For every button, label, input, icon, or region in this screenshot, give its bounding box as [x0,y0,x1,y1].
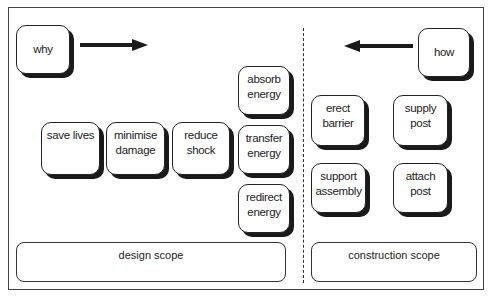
construction-scope-label: construction scope [348,249,440,261]
how-label: how [434,45,454,60]
node-transfer-energy: transfer energy [238,125,290,174]
node-label-line: assembly [312,184,365,199]
node-minimise-damage: minimise damage [106,122,165,175]
node-reduce-shock: reduce shock [172,122,230,175]
arrow-right-icon [80,38,150,52]
node-label-line: damage [107,143,164,158]
node-label-line: energy [239,146,289,161]
node-attach-post: attach post [393,163,448,213]
node-label-line: energy [239,205,289,220]
why-label: why [33,42,53,57]
scope-divider-dashed-line [303,28,304,283]
node-label-line: attach [394,169,447,184]
node-label-line: reduce [173,128,229,143]
node-label-line: supply [394,101,447,116]
node-label-line: redirect [239,190,289,205]
node-absorb-energy: absorb energy [238,66,290,115]
design-scope-box: design scope [16,242,286,282]
node-save-lives: save lives [41,122,100,175]
node-label-line: minimise [107,128,164,143]
design-scope-label: design scope [119,249,184,261]
node-label-line: support [312,169,365,184]
node-label-line: post [394,116,447,131]
how-node: how [418,28,470,77]
node-supply-post: supply post [393,95,448,146]
node-label-line: absorb [239,72,289,87]
node-label-line: erect [312,101,364,116]
node-erect-barrier: erect barrier [311,95,365,146]
node-label-line: transfer [239,131,289,146]
node-label-line: post [394,184,447,199]
node-label-line: energy [239,87,289,102]
node-redirect-energy: redirect energy [238,184,290,233]
arrow-left-icon [344,39,414,53]
why-node: why [16,25,70,74]
node-label-line: barrier [312,116,364,131]
node-label-line: save lives [42,128,99,143]
node-label-line: shock [173,143,229,158]
node-support-assembly: support assembly [311,163,366,213]
construction-scope-box: construction scope [311,242,477,282]
